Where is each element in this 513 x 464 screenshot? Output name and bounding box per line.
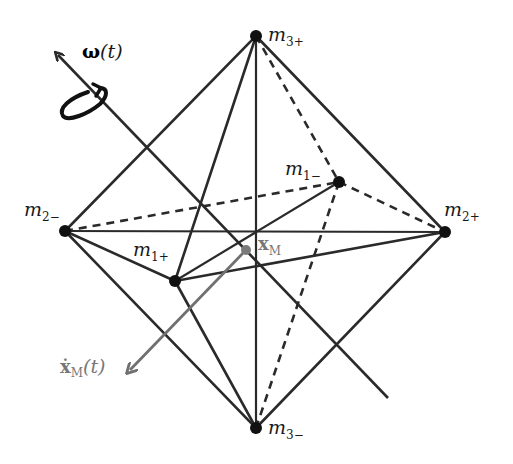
label-m2-minus: m2−: [24, 198, 60, 224]
vertex-m2-minus: [59, 225, 71, 237]
label-m3-minus: m3−: [268, 416, 304, 442]
vertex-m2-plus: [439, 226, 451, 238]
label-m1-plus: m1+: [133, 238, 169, 264]
center-of-mass-label: xM: [258, 233, 281, 258]
label-m3-plus: m3+: [268, 23, 304, 49]
edge-m3p-m2p: [256, 36, 445, 232]
vertex-m3-minus: [250, 422, 262, 434]
omega-axis-line: [58, 55, 388, 398]
velocity-label: ẋM(t): [60, 355, 106, 380]
edge-m3p-m2m: [65, 36, 256, 231]
edge-m1m-m2p: [339, 182, 445, 232]
omega-label: ω(t): [82, 40, 123, 62]
octahedron-diagram: ω(t) ẋM(t) xM m3+ m3− m2−: [0, 0, 513, 464]
label-m2-plus: m2+: [444, 198, 480, 224]
vertex-m1-minus: [333, 176, 345, 188]
vertex-m1-plus: [169, 275, 181, 287]
internal-axes: [65, 36, 445, 428]
center-of-mass-dot: [241, 245, 251, 255]
label-m1-minus: m1−: [285, 157, 321, 183]
vertex-m3-plus: [250, 30, 262, 42]
edge-m3p-m1p: [175, 36, 256, 281]
edge-m1p-m3m: [175, 281, 256, 428]
